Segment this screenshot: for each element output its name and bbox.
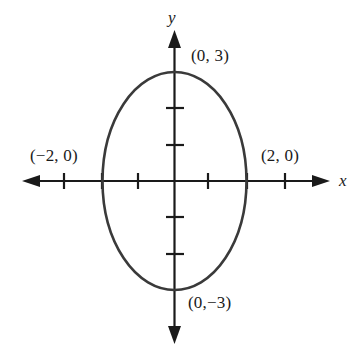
x-axis-right-arrow-icon: [312, 175, 330, 187]
y-axis-label: y: [168, 8, 176, 28]
y-axis-top-arrow-icon: [168, 30, 181, 48]
vertex-label-bottom: (0,−3): [188, 293, 231, 313]
vertex-label-right: (2, 0): [261, 146, 299, 166]
x-axis-label: x: [339, 171, 347, 191]
coordinate-plane-svg: [0, 0, 357, 351]
vertex-label-left: (−2, 0): [30, 146, 78, 166]
vertex-label-top: (0, 3): [191, 46, 229, 66]
x-axis-left-arrow-icon: [22, 175, 40, 187]
ellipse-graph-figure: (0, 3) (0,−3) (−2, 0) (2, 0) x y: [0, 0, 357, 351]
y-axis-bottom-arrow-icon: [168, 326, 181, 344]
